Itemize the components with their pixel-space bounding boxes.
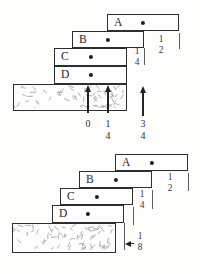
block-d-label: D	[59, 208, 67, 219]
table-bottom	[12, 223, 116, 253]
overhang-fraction-d-over-table: 1 8	[138, 231, 143, 252]
position-label-1-4: 1 4	[106, 118, 111, 141]
block-b-label: B	[79, 34, 87, 45]
top-block-b: B	[72, 31, 144, 48]
block-c-label: C	[61, 51, 69, 62]
block-d-label: D	[61, 69, 69, 80]
block-c-label: C	[67, 191, 75, 202]
dimension-tick	[179, 33, 180, 49]
center-of-mass-dot	[149, 160, 153, 164]
overhang-fraction-b-over-c: 1 4	[135, 46, 140, 67]
dimension-tick	[133, 207, 134, 225]
center-of-mass-dot	[141, 20, 145, 24]
center-of-mass-dot	[88, 55, 92, 59]
block-a-label: A	[122, 157, 130, 168]
block-b-label: B	[86, 174, 94, 185]
center-of-mass-dot	[86, 212, 90, 216]
dimension-tick	[188, 173, 189, 191]
bottom-block-c: C	[60, 188, 133, 205]
bottom-block-b: B	[79, 171, 152, 188]
top-block-c: C	[54, 48, 127, 66]
overhang-fraction-a-over-b: 1 2	[168, 172, 173, 193]
overhang-fraction-a-over-b: 1 2	[159, 34, 164, 55]
dimension-tick	[152, 190, 153, 209]
position-label-3-4: 3 4	[141, 118, 146, 141]
bottom-block-a: A	[115, 154, 188, 171]
overhang-fraction-b-over-c: 1 4	[140, 189, 145, 210]
position-label-0: 0	[86, 118, 91, 130]
stacked-blocks-figure: A B C D 1 2 1 4	[0, 0, 200, 274]
table-texture	[13, 224, 113, 250]
dimension-tick	[144, 48, 145, 65]
center-of-mass-dot	[88, 73, 92, 77]
top-block-a: A	[107, 14, 179, 31]
center-of-mass-dot	[94, 194, 98, 198]
center-of-mass-dot	[113, 177, 117, 181]
block-a-label: A	[114, 17, 122, 28]
bottom-block-d: D	[52, 205, 124, 223]
center-of-mass-dot	[106, 37, 110, 41]
top-block-d: D	[54, 66, 127, 84]
